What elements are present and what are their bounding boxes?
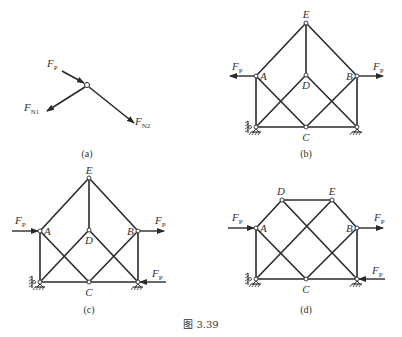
load-label: FP xyxy=(372,60,384,75)
truss-d-members xyxy=(256,200,357,279)
load-label: FP xyxy=(371,264,383,279)
panel-d: D E A B C FP FP FP (d) xyxy=(228,185,385,316)
force-fp-arrow xyxy=(62,71,84,83)
wall-support-icon xyxy=(245,273,252,285)
caption-d: (d) xyxy=(300,304,312,316)
wall-support-icon xyxy=(245,121,252,133)
caption-b: (b) xyxy=(300,148,312,160)
force-fn1-arrow xyxy=(47,87,85,111)
figure-caption: 图 3.39 xyxy=(183,319,218,330)
panel-b: E A B D C FP FP (b) xyxy=(230,8,384,160)
load-label: FP xyxy=(373,211,385,226)
pin-support-icon xyxy=(249,281,261,287)
node-label-c: C xyxy=(302,131,310,143)
node-label-b: B xyxy=(346,222,353,234)
node-label-b: B xyxy=(346,70,353,82)
load-label: FP xyxy=(231,211,243,226)
node-label-a: A xyxy=(259,222,267,234)
node-label-d: D xyxy=(301,79,310,91)
node-label-b: B xyxy=(127,225,134,237)
label-fp: FP xyxy=(46,57,58,72)
panel-a: FP FN1 FN2 (a) xyxy=(23,57,151,160)
node-label-e: E xyxy=(302,8,310,20)
load-label: FP xyxy=(154,214,166,229)
pin-support-icon xyxy=(131,284,143,290)
pin-support-icon xyxy=(249,129,261,135)
node-label-e: E xyxy=(328,185,336,197)
pin-support-icon xyxy=(33,284,45,290)
node-label-d: D xyxy=(84,234,93,246)
caption-a: (a) xyxy=(81,148,92,160)
joint-node xyxy=(85,83,90,88)
load-label: FP xyxy=(151,267,163,282)
load-label: FP xyxy=(231,60,243,75)
pin-support-icon xyxy=(350,281,362,287)
node-label-d: D xyxy=(276,185,285,197)
panel-c: E A B D C FP FP FP (c) xyxy=(12,164,166,316)
pin-support-icon xyxy=(350,129,362,135)
label-fn2: FN2 xyxy=(134,115,151,130)
node-label-a: A xyxy=(259,70,267,82)
node-label-c: C xyxy=(302,283,310,295)
node-label-a: A xyxy=(43,225,51,237)
node-label-e: E xyxy=(85,164,93,176)
label-fn1: FN1 xyxy=(23,101,40,116)
caption-c: (c) xyxy=(83,304,94,316)
node-label-c: C xyxy=(85,286,93,298)
wall-support-icon xyxy=(29,276,36,288)
force-fn2-arrow xyxy=(89,87,134,123)
load-label: FP xyxy=(14,214,26,229)
figure-canvas: FP FN1 FN2 (a) E A B xyxy=(0,0,402,337)
